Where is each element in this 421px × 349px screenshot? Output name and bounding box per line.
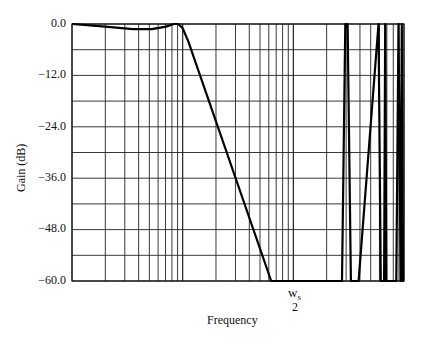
y-axis-label: Gain (dB) [14, 144, 29, 192]
ws-annotation-denominator: 2 [292, 300, 298, 315]
ws-annotation-numerator: ws [288, 285, 301, 301]
y-tick-24: −24.0 [6, 119, 66, 134]
x-axis-label: Frequency [207, 313, 258, 328]
y-tick-60: −60.0 [6, 273, 66, 288]
y-tick-12: −12.0 [6, 67, 66, 82]
grid-lines [72, 24, 404, 281]
ws-symbol: w [288, 285, 297, 300]
y-tick-0: 0.0 [6, 16, 66, 31]
y-tick-48: −48.0 [6, 221, 66, 236]
